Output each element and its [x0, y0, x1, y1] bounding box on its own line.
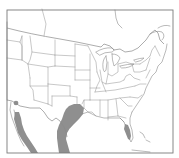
map-canvas	[0, 0, 179, 158]
state-borders	[7, 9, 160, 120]
range-map	[0, 0, 179, 158]
range-areas	[14, 101, 131, 153]
coastlines	[7, 10, 170, 152]
range-texas-mexico	[57, 104, 84, 153]
